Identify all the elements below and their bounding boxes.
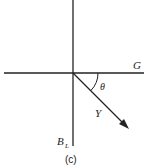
- figure-caption: (c): [65, 154, 77, 165]
- label-theta: θ: [100, 81, 105, 92]
- phasor-diagram: G θ Y B L (c): [0, 0, 145, 167]
- label-y: Y: [95, 107, 103, 119]
- label-b-subscript: L: [64, 142, 69, 150]
- angle-arc: [91, 73, 98, 91]
- label-b: B: [57, 135, 64, 147]
- label-g: G: [133, 59, 141, 71]
